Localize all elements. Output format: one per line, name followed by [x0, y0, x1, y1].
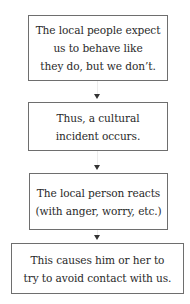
step-box-3-reaction: The local person reacts (with anger, wor…	[29, 173, 168, 230]
step-line: us to behave like	[36, 39, 161, 57]
step-line: (with anger, worry, etc.)	[35, 202, 161, 220]
step-box-4-avoidance: This causes him or her to try to avoid c…	[11, 243, 184, 294]
step-text: The local person reacts (with anger, wor…	[35, 184, 161, 220]
step-line: incident occurs.	[56, 127, 140, 145]
connector-line	[97, 81, 98, 95]
down-arrow-icon	[94, 94, 100, 99]
step-text: Thus, a cultural incident occurs.	[56, 109, 140, 145]
step-text: The local people expect us to behave lik…	[36, 21, 161, 75]
step-line: The local people expect	[36, 21, 161, 39]
step-line: try to avoid contact with us.	[24, 269, 172, 287]
down-arrow-icon	[94, 165, 100, 170]
down-arrow-icon	[94, 235, 100, 240]
step-line: they do, but we don’t.	[36, 57, 161, 75]
step-text: This causes him or her to try to avoid c…	[24, 251, 172, 287]
step-box-1-expectation: The local people expect us to behave lik…	[28, 15, 168, 81]
step-box-2-incident: Thus, a cultural incident occurs.	[28, 102, 168, 151]
step-line: Thus, a cultural	[56, 109, 140, 127]
step-line: This causes him or her to	[24, 251, 172, 269]
step-line: The local person reacts	[35, 184, 161, 202]
connector-line	[97, 151, 98, 165]
